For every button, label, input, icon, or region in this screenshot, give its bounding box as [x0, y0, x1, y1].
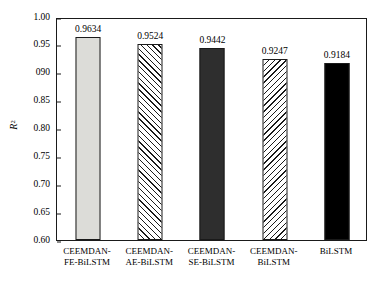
x-axis-tick-label-line: AE-BiLSTM: [126, 257, 174, 268]
bar-slot: 0.9442: [181, 19, 243, 240]
bar[interactable]: [200, 48, 225, 240]
bar[interactable]: [324, 63, 349, 241]
y-axis-tick-label: 1.00: [33, 11, 50, 22]
y-axis-tick-label: 0.80: [33, 123, 50, 134]
x-axis-tick-label: CEEMDAN-FE-BiLSTM: [63, 246, 111, 267]
y-axis-tick-mark: [57, 241, 61, 242]
y-axis-tick-label: 0.85: [33, 95, 50, 106]
bar-slot: 0.9634: [57, 19, 119, 240]
x-axis-tick-label-line: CEEMDAN-: [250, 246, 298, 257]
bar-slot: 0.9247: [244, 19, 306, 240]
bar-value-label: 0.9442: [199, 35, 225, 46]
y-axis-tick-label: 0.60: [33, 234, 50, 245]
y-axis-tick-label: 0.65: [33, 206, 50, 217]
x-axis-tick-label: CEEMDAN-BiLSTM: [250, 246, 298, 267]
x-axis-tick-label-line: CEEMDAN-: [188, 246, 236, 257]
bar-value-label: 0.9247: [262, 46, 288, 57]
bar-chart-figure: R2 1.000.950900.850.800.750.700.650.60 0…: [0, 0, 392, 288]
x-axis-tick-label-line: BiLSTM: [320, 246, 353, 257]
x-axis-tick-label-line: SE-BiLSTM: [188, 257, 236, 268]
y-axis-title: R2: [0, 114, 28, 136]
x-axis-tick-label-line: CEEMDAN-: [126, 246, 174, 257]
y-axis-tick-label: 090: [36, 67, 50, 78]
x-axis-tick-label: CEEMDAN-SE-BiLSTM: [188, 246, 236, 267]
y-axis-tick-label: 0.95: [33, 39, 50, 50]
y-axis-tick-label: 0.75: [33, 150, 50, 161]
y-axis-tick-label: 0.70: [33, 178, 50, 189]
bar-value-label: 0.9634: [75, 24, 101, 35]
x-axis-tick-label: CEEMDAN-AE-BiLSTM: [126, 246, 174, 267]
bar[interactable]: [262, 59, 287, 240]
x-axis-tick-label-line: FE-BiLSTM: [63, 257, 111, 268]
x-axis-tick-label-line: BiLSTM: [250, 257, 298, 268]
bar[interactable]: [138, 44, 163, 240]
plot-area: 1.000.950900.850.800.750.700.650.60 0.96…: [56, 18, 367, 241]
bar-slot: 0.9184: [306, 19, 368, 240]
x-axis-tick-label-line: CEEMDAN-: [63, 246, 111, 257]
bar-value-label: 0.9184: [324, 50, 350, 61]
bar[interactable]: [76, 37, 101, 240]
bar-slot: 0.9524: [119, 19, 181, 240]
x-axis-tick-label: BiLSTM: [320, 246, 353, 257]
bar-value-label: 0.9524: [137, 31, 163, 42]
y-axis-title-base: R: [8, 124, 19, 130]
